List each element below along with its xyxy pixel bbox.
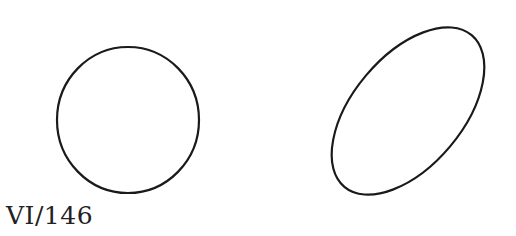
tilted-ellipse-shape — [302, 0, 514, 222]
figure-label: VI/146 — [6, 201, 93, 230]
circle-shape — [57, 47, 199, 193]
